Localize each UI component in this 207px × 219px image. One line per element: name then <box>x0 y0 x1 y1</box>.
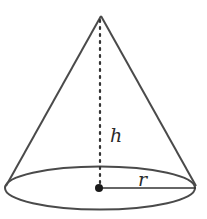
radius-label: r <box>138 168 149 190</box>
left-slant-edge <box>6 16 101 186</box>
cone-diagram: h r <box>0 0 207 219</box>
height-label: h <box>110 124 122 146</box>
cone-figure: h r <box>0 0 207 219</box>
center-point <box>95 184 103 192</box>
right-slant-edge <box>101 16 196 186</box>
